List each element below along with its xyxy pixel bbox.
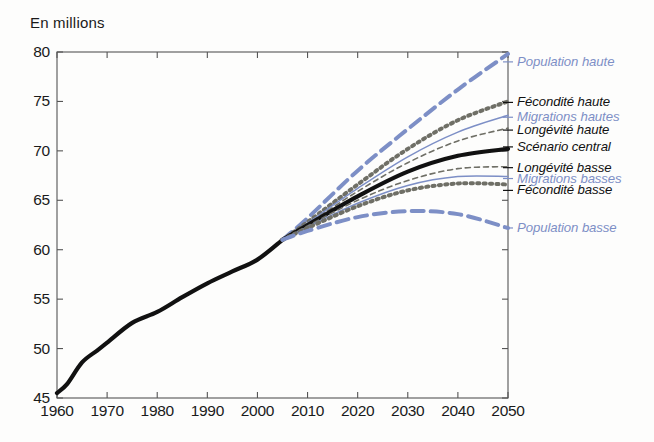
legend-label-f-condit-haute: Fécondité haute (517, 94, 610, 109)
y-axis-tick-80: 80 (18, 43, 50, 61)
y-axis-tick-65: 65 (18, 191, 50, 209)
legend-label-sc-nario-central: Scénario central (517, 139, 611, 154)
legend-label-long-vit-haute: Longévité haute (517, 122, 609, 137)
legend-label-population-basse: Population basse (517, 220, 617, 235)
series-layer (57, 54, 508, 393)
population-projection-chart: En millions 8075706560555045 19601970198… (0, 0, 654, 442)
x-axis-tick-2010: 2010 (282, 402, 334, 420)
series-line-historique (57, 240, 283, 393)
x-axis-tick-2050: 2050 (482, 402, 534, 420)
y-axis-tick-50: 50 (18, 340, 50, 358)
x-axis-tick-2000: 2000 (231, 402, 283, 420)
y-axis-tick-75: 75 (18, 92, 50, 110)
legend-label-population-haute: Population haute (517, 54, 614, 69)
x-axis-tick-1990: 1990 (181, 402, 233, 420)
y-axis-tick-55: 55 (18, 290, 50, 308)
x-axis-tick-1970: 1970 (81, 402, 133, 420)
x-axis-tick-2030: 2030 (382, 402, 434, 420)
legend-label-f-condit-basse: Fécondité basse (517, 182, 612, 197)
x-axis-tick-1980: 1980 (131, 402, 183, 420)
x-axis-tick-2020: 2020 (332, 402, 384, 420)
y-axis-tick-70: 70 (18, 142, 50, 160)
x-axis-tick-2040: 2040 (432, 402, 484, 420)
y-axis-tick-60: 60 (18, 241, 50, 259)
x-axis-tick-1960: 1960 (31, 402, 83, 420)
